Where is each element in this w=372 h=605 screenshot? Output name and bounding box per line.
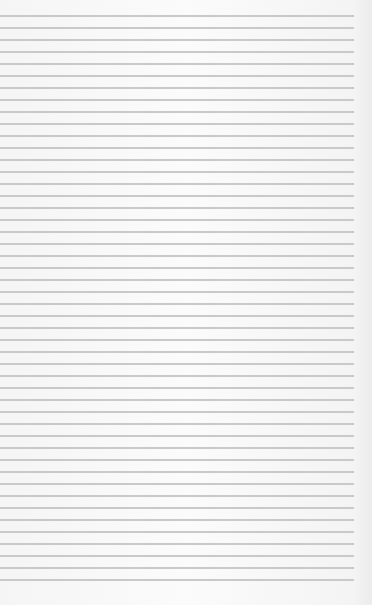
ruled-line (0, 555, 354, 557)
ruled-line (0, 207, 354, 209)
ruled-line (0, 339, 354, 341)
ruled-line (0, 459, 354, 461)
ruled-line (0, 291, 354, 293)
ruled-line (0, 351, 354, 353)
ruled-line (0, 87, 354, 89)
ruled-line (0, 435, 354, 437)
ruled-line (0, 303, 354, 305)
ruled-line (0, 147, 354, 149)
ruled-line (0, 39, 354, 41)
ruled-line (0, 471, 354, 473)
ruled-line (0, 411, 354, 413)
ruled-line (0, 363, 354, 365)
ruled-line (0, 399, 354, 401)
ruled-line (0, 567, 354, 569)
ruled-line (0, 507, 354, 509)
ruled-line (0, 135, 354, 137)
ruled-line (0, 519, 354, 521)
lined-paper (0, 0, 372, 605)
ruled-line (0, 183, 354, 185)
ruled-line (0, 579, 354, 581)
ruled-line (0, 531, 354, 533)
ruled-line (0, 423, 354, 425)
ruled-line (0, 447, 354, 449)
ruled-line (0, 219, 354, 221)
ruled-line (0, 99, 354, 101)
ruled-line (0, 171, 354, 173)
ruled-line (0, 231, 354, 233)
ruled-line (0, 75, 354, 77)
ruled-line (0, 195, 354, 197)
ruled-line (0, 327, 354, 329)
ruled-line (0, 51, 354, 53)
ruled-line (0, 111, 354, 113)
ruled-line (0, 27, 354, 29)
ruled-line (0, 243, 354, 245)
ruled-line (0, 255, 354, 257)
ruled-line (0, 159, 354, 161)
ruled-line (0, 279, 354, 281)
ruled-line (0, 387, 354, 389)
ruled-line (0, 267, 354, 269)
ruled-line (0, 483, 354, 485)
ruled-line (0, 123, 354, 125)
ruled-line (0, 315, 354, 317)
ruled-line (0, 543, 354, 545)
ruled-line (0, 63, 354, 65)
ruled-line (0, 15, 354, 17)
ruled-line (0, 495, 354, 497)
ruled-line (0, 375, 354, 377)
page-edge-shadow (354, 0, 372, 605)
